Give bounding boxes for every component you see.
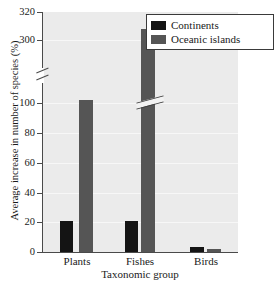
y-tick-mark-40 xyxy=(37,193,42,194)
bar-plants-oceanic-islands xyxy=(79,100,93,252)
y-tick-label-100: 100 xyxy=(19,98,35,109)
bar-chart: 320 300 100 80 60 40 20 0 Plants Fishes … xyxy=(0,0,274,281)
x-label-fishes: Fishes xyxy=(112,255,168,267)
x-label-plants: Plants xyxy=(49,255,105,267)
y-tick-label-60: 60 xyxy=(25,158,36,169)
bar-plants-continents xyxy=(60,221,73,252)
y-axis-title: Average increase in number of species (%… xyxy=(9,6,20,256)
x-label-birds: Birds xyxy=(178,255,234,267)
y-tick-label-80: 80 xyxy=(25,128,36,139)
y-tick-label-300: 300 xyxy=(19,35,35,46)
y-tick-mark-60 xyxy=(37,163,42,164)
legend-label-oceanic-islands: Oceanic islands xyxy=(171,33,240,45)
y-tick-label-40: 40 xyxy=(25,188,36,199)
bar-fishes-oceanic-islands xyxy=(141,29,155,252)
y-tick-label-0: 0 xyxy=(30,247,35,258)
bar-birds-continents xyxy=(190,247,204,252)
y-tick-label-20: 20 xyxy=(25,217,36,228)
y-tick-mark-0 xyxy=(37,252,42,253)
y-tick-mark-80 xyxy=(37,133,42,134)
x-axis-line xyxy=(42,252,238,253)
y-tick-mark-320 xyxy=(37,12,42,13)
y-tick-mark-20 xyxy=(37,222,42,223)
y-tick-mark-300 xyxy=(37,40,42,41)
legend-item-oceanic-islands: Oceanic islands xyxy=(151,32,269,46)
bar-birds-oceanic-islands xyxy=(207,249,221,252)
y-axis-line xyxy=(42,12,43,253)
y-axis-break-marker xyxy=(36,66,49,84)
legend-swatch-oceanic-islands-icon xyxy=(151,35,166,44)
y-tick-mark-100 xyxy=(37,103,42,104)
legend-label-continents: Continents xyxy=(171,19,219,31)
chart-legend: Continents Oceanic islands xyxy=(146,14,274,50)
x-axis-title: Taxonomic group xyxy=(42,268,238,280)
y-tick-label-320: 320 xyxy=(19,7,35,18)
legend-item-continents: Continents xyxy=(151,18,269,32)
legend-swatch-continents-icon xyxy=(151,21,166,30)
bar-fishes-continents xyxy=(125,221,138,252)
